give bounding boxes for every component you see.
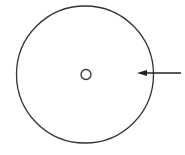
arrow-head: [137, 70, 147, 76]
diagram-canvas: [0, 0, 185, 155]
outer-circle: [17, 6, 154, 143]
center-circle: [81, 70, 91, 80]
